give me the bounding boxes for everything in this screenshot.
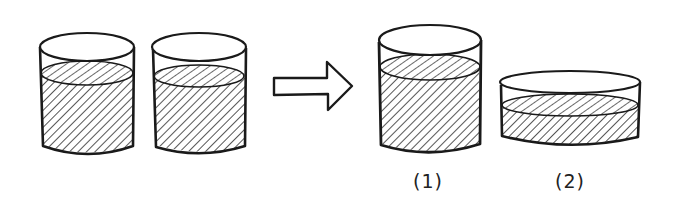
liquid-surface — [502, 94, 638, 116]
container-cup-b — [152, 33, 246, 153]
option-1-tall-cylinder — [379, 25, 481, 152]
cup-rim — [152, 33, 246, 61]
liquid-surface — [380, 54, 480, 80]
liquid-surface — [154, 65, 244, 87]
option-1-label: (1) — [413, 170, 443, 192]
cup-rim — [40, 33, 134, 61]
right-arrow-icon — [274, 62, 352, 110]
option-2-label: (2) — [555, 170, 585, 192]
dish-rim — [500, 71, 640, 93]
cup-rim — [379, 25, 481, 55]
container-cup-a — [40, 33, 134, 154]
liquid-surface — [41, 61, 133, 85]
option-2-wide-dish — [500, 71, 640, 145]
